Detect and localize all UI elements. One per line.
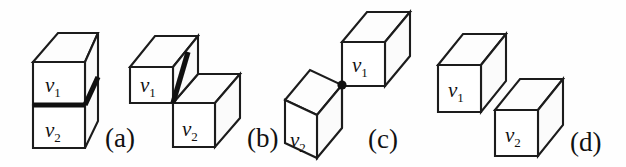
panel-c-caption: (c) <box>368 124 398 154</box>
voxel-adjacency-figure: v1 v2 (a) v1 v2 (b) <box>0 0 626 167</box>
panel-d-drawing: v1 v2 (d) <box>425 0 626 167</box>
panel-d: v1 v2 (d) <box>425 0 626 167</box>
panel-d-caption: (d) <box>570 127 601 157</box>
panel-b-caption: (b) <box>247 123 278 153</box>
shared-vertex-dot <box>337 80 346 89</box>
